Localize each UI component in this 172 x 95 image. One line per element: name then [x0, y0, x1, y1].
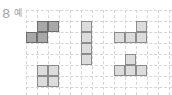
t-tetromino-cell	[136, 65, 147, 76]
grid-line-vertical	[147, 10, 148, 95]
grid-line-horizontal	[26, 10, 172, 11]
t-tetromino-cell	[125, 54, 136, 65]
z-tetromino-example-cell	[48, 21, 59, 32]
dotted-grid	[26, 10, 172, 95]
i-tetromino-cell	[81, 21, 92, 32]
l-tetromino-cell	[136, 21, 147, 32]
o-tetromino-cell	[48, 76, 59, 87]
grid-line-horizontal	[26, 87, 172, 88]
grid-line-vertical	[92, 10, 93, 95]
l-tetromino-cell	[136, 32, 147, 43]
grid-line-vertical	[59, 10, 60, 95]
z-tetromino-example-cell	[37, 32, 48, 43]
grid-line-horizontal	[26, 54, 172, 55]
l-tetromino-cell	[125, 32, 136, 43]
grid-line-vertical	[114, 10, 115, 95]
grid-line-vertical	[26, 10, 27, 95]
grid-line-horizontal	[26, 43, 172, 44]
i-tetromino-cell	[81, 54, 92, 65]
t-tetromino-cell	[125, 65, 136, 76]
o-tetromino-cell	[37, 76, 48, 87]
i-tetromino-cell	[81, 43, 92, 54]
problem-number: 8	[2, 6, 10, 21]
example-label: 8 예	[2, 6, 21, 21]
o-tetromino-cell	[48, 65, 59, 76]
grid-line-vertical	[158, 10, 159, 95]
grid-line-vertical	[125, 10, 126, 95]
l-tetromino-cell	[114, 32, 125, 43]
example-text: 예	[14, 8, 22, 18]
t-tetromino-cell	[114, 65, 125, 76]
grid-line-vertical	[169, 10, 170, 95]
z-tetromino-example-cell	[37, 21, 48, 32]
grid-line-vertical	[103, 10, 104, 95]
z-tetromino-example-cell	[26, 32, 37, 43]
grid-line-vertical	[70, 10, 71, 95]
o-tetromino-cell	[37, 65, 48, 76]
i-tetromino-cell	[81, 32, 92, 43]
